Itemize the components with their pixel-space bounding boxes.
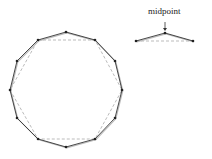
polygon-diagram: [0, 0, 212, 159]
vertex-point: [9, 89, 12, 92]
vertex-point: [65, 146, 68, 149]
vertex-point: [37, 138, 40, 141]
vertex-points: [9, 31, 124, 149]
vertex-point: [65, 31, 68, 34]
vertex-point: [94, 39, 97, 42]
vertex-point: [37, 39, 40, 42]
vertex-point: [114, 117, 117, 120]
vertex-point: [16, 117, 19, 120]
vertex-point: [114, 60, 117, 63]
vertex-point: [121, 89, 124, 92]
hexagon-dashed: [10, 40, 122, 139]
vertex-point: [94, 138, 97, 141]
vertex-point: [16, 60, 19, 63]
inset-diagram: [135, 22, 195, 42]
midpoint-label: midpoint: [148, 6, 181, 16]
dodecagon-solid: [10, 32, 123, 148]
